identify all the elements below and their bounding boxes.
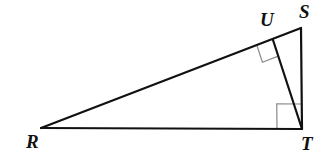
vertex-label-S: S xyxy=(299,2,310,21)
vertex-label-R: R xyxy=(26,132,39,151)
segment-ST-vertical-leg xyxy=(301,28,302,129)
geometry-figure: R U S T xyxy=(0,0,331,161)
geometry-canvas xyxy=(0,0,331,161)
segment-RT-base-leg xyxy=(41,128,302,129)
vertex-label-T: T xyxy=(301,134,313,153)
vertex-label-U: U xyxy=(260,10,274,29)
